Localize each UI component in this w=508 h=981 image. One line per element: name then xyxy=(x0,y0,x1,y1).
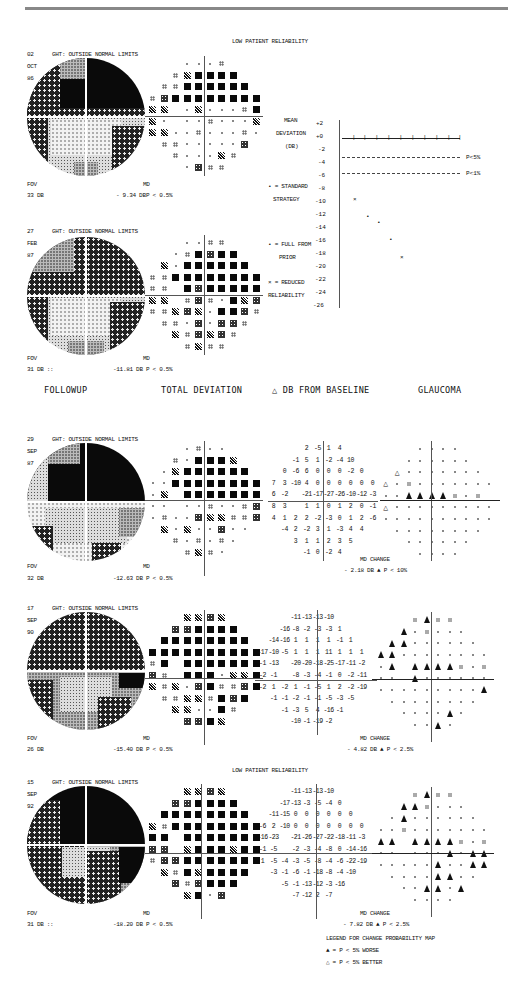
y-tick: -10 xyxy=(315,198,326,205)
change-map-horizontal-axis xyxy=(372,679,494,680)
map-horizontal-axis xyxy=(145,853,263,854)
y-tick: +2 xyxy=(316,120,323,127)
md-label: MD xyxy=(143,563,150,570)
test-day: 17 xyxy=(27,605,34,612)
change-map-horizontal-axis xyxy=(380,500,500,501)
pattern-deviation-probability-map xyxy=(147,786,262,901)
legend-standard-line2: STRATEGY xyxy=(273,196,299,203)
y-tick: -8 xyxy=(318,185,325,192)
md-point-standard: • xyxy=(366,213,370,220)
md-change-label: MD CHANGE xyxy=(360,735,390,742)
grayscale-field-plot xyxy=(27,58,145,176)
delta-horizontal-axis xyxy=(268,501,378,502)
header-followup: FOLLOWUP xyxy=(44,385,87,395)
y-tick: -2 xyxy=(318,146,325,153)
md-chart-title-1: MEAN xyxy=(284,117,297,124)
ght-label: GHT: OUTSIDE NORMAL LIMITS xyxy=(52,51,138,58)
md-value: - 9.34 DB xyxy=(116,192,146,199)
fov-label: FOV xyxy=(27,735,37,742)
test-day: 29 xyxy=(27,436,34,443)
md-point-reduced: × xyxy=(400,254,404,261)
change-map-vertical-axis xyxy=(431,787,432,917)
map-vertical-axis xyxy=(204,441,205,576)
md-label: MD xyxy=(143,910,150,917)
grayscale-field-plot xyxy=(27,443,145,561)
grayscale-field-plot xyxy=(27,612,145,730)
map-horizontal-axis xyxy=(145,116,263,117)
md-value: -12.63 DB xyxy=(113,575,143,582)
md-value: -15.40 DB xyxy=(113,746,143,753)
delta-horizontal-axis xyxy=(255,680,377,681)
md-chart-title-3: (DB) xyxy=(285,143,298,150)
y-tick: -22 xyxy=(315,276,326,283)
ght-label: GHT: OUTSIDE NORMAL LIMITS xyxy=(52,436,138,443)
change-map-vertical-axis xyxy=(431,612,432,742)
db-from-baseline-grid: -11-13-13-10 -16-8-2-3-31 -14-161111-11 … xyxy=(257,612,367,728)
fov-value: 32 DB xyxy=(27,575,44,582)
p5-label: P<5% xyxy=(466,154,480,161)
md-value: -18.20 DB xyxy=(113,921,143,928)
legend-reduced-line1: × = REDUCED xyxy=(268,279,304,286)
legend-reduced-line2: RELIABILITY xyxy=(268,292,304,299)
change-probability-map: △ △ △ xyxy=(380,443,495,560)
md-value: -11.81 DB xyxy=(113,366,143,373)
test-day: 15 xyxy=(27,779,34,786)
map-horizontal-axis xyxy=(145,500,263,501)
md-change-value: - 2.18 DB ▲ P < 10% xyxy=(344,567,407,574)
header-glaucoma: GLAUCOMA xyxy=(418,385,461,395)
change-map-vertical-axis xyxy=(431,441,432,561)
header-db-from-baseline: △ DB FROM BASELINE xyxy=(272,385,370,395)
y-tick: -6 xyxy=(318,172,325,179)
md-label: MD xyxy=(143,355,150,362)
delta-horizontal-axis xyxy=(255,853,377,854)
legend-worse: ▲ = P < 5% WORSE xyxy=(326,947,379,954)
y-tick: -18 xyxy=(315,250,326,257)
change-probability-map xyxy=(375,789,490,906)
p1-label: P<1% xyxy=(466,170,480,177)
fov-value: 26 DB xyxy=(27,746,44,753)
grayscale-field-plot xyxy=(27,237,145,355)
fov-value: 31 DB :: xyxy=(27,366,53,373)
fov-value: 33 DB xyxy=(27,192,44,199)
md-p-value: P < 0.5% xyxy=(146,921,172,928)
md-point-reduced: × xyxy=(353,196,357,203)
y-tick: +0 xyxy=(316,133,323,140)
md-change-value: - 7.82 DB ▲ P < 2.5% xyxy=(343,921,409,928)
md-p-value: P < 0.5% xyxy=(146,192,172,199)
fov-label: FOV xyxy=(27,910,37,917)
md-change-value: - 4.82 DB ▲ P < 2.5% xyxy=(347,746,413,753)
y-tick: -20 xyxy=(315,263,326,270)
md-point-standard: • xyxy=(389,236,393,243)
legend-full-line2: PRIOR xyxy=(279,254,296,261)
fov-label: FOV xyxy=(27,355,37,362)
legend-full-line1: • = FULL FROM xyxy=(268,241,311,248)
reliability-banner-bottom: LOW PATIENT RELIABILITY xyxy=(232,767,308,774)
ght-label: GHT: OUTSIDE NORMAL LIMITS xyxy=(52,228,138,235)
test-day: 02 xyxy=(27,51,34,58)
md-label: MD xyxy=(143,735,150,742)
p1-reference-line xyxy=(342,173,460,174)
delta-vertical-axis xyxy=(317,610,318,735)
map-vertical-axis xyxy=(201,784,202,919)
map-horizontal-axis xyxy=(145,678,263,679)
fov-value: 31 DB :: xyxy=(27,921,53,928)
y-tick: -26 xyxy=(313,302,324,309)
y-tick: -16 xyxy=(315,237,326,244)
p5-reference-line xyxy=(342,157,460,158)
ght-label: GHT: OUTSIDE NORMAL LIMITS xyxy=(52,779,138,786)
md-point-standard: • xyxy=(377,219,381,226)
legend-better: △ = P < 5% BETTER xyxy=(326,959,382,966)
map-horizontal-axis xyxy=(145,295,263,296)
md-p-value: P < 0.5% xyxy=(146,746,172,753)
y-tick: -4 xyxy=(318,159,325,166)
header-total-deviation: TOTAL DEVIATION xyxy=(161,385,242,395)
md-p-value: P < 0.5% xyxy=(146,366,172,373)
page-header-rule xyxy=(25,7,508,10)
ght-label: GHT: OUTSIDE NORMAL LIMITS xyxy=(52,605,138,612)
reliability-banner-top: LOW PATIENT RELIABILITY xyxy=(232,38,308,45)
db-from-baseline-grid: -11-13-13-10 -17-13-3-5-40 -11-15000000 … xyxy=(257,786,367,902)
y-tick: -14 xyxy=(315,224,326,231)
y-tick: -24 xyxy=(315,289,326,296)
fov-label: FOV xyxy=(27,563,37,570)
y-tick: -12 xyxy=(315,211,326,218)
